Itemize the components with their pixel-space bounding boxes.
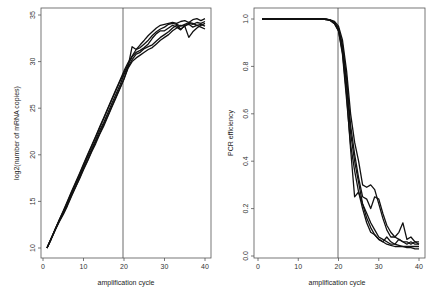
y-tick-label: 30 — [29, 58, 36, 66]
x-tick-label: 10 — [80, 263, 88, 270]
x-tick-label: 0 — [41, 263, 45, 270]
left-x-axis: 010203040 — [41, 258, 209, 270]
y-tick-label: 35 — [29, 11, 36, 19]
y-tick-label: 0.8 — [242, 61, 249, 71]
left-series-lines — [47, 19, 205, 248]
figure: 101520253035 010203040 log2(number of mR… — [0, 0, 439, 298]
x-tick-label: 40 — [415, 263, 423, 270]
x-tick-label: 40 — [201, 263, 209, 270]
y-tick-label: 0.2 — [242, 204, 249, 214]
right-plot: 0.00.20.40.60.81.0 010203040 PCR efficie… — [227, 8, 425, 287]
y-tick-label: 25 — [29, 104, 36, 112]
series-line — [262, 19, 419, 244]
y-tick-label: 1.0 — [242, 14, 249, 24]
y-tick-label: 0.0 — [242, 251, 249, 261]
x-tick-label: 30 — [375, 263, 383, 270]
left-x-axis-label: amplification cycle — [98, 279, 155, 287]
x-tick-label: 0 — [256, 263, 260, 270]
right-plot-frame — [254, 8, 425, 258]
left-plot: 101520253035 010203040 log2(number of mR… — [13, 8, 211, 287]
right-y-axis: 0.00.20.40.60.81.0 — [242, 14, 254, 261]
series-line — [47, 23, 205, 249]
y-tick-label: 10 — [29, 244, 36, 252]
x-tick-label: 30 — [161, 263, 169, 270]
left-plot-frame — [41, 8, 211, 258]
series-line — [47, 24, 205, 248]
series-line — [47, 23, 205, 248]
right-x-axis-label: amplification cycle — [309, 279, 366, 287]
right-series-lines — [262, 19, 419, 249]
y-tick-label: 0.4 — [242, 156, 249, 166]
series-line — [262, 19, 419, 242]
series-line — [47, 22, 205, 249]
series-line — [47, 19, 205, 248]
left-y-axis: 101520253035 — [29, 11, 41, 252]
right-y-axis-label: PCR efficiency — [227, 110, 235, 156]
right-x-axis: 010203040 — [256, 258, 423, 270]
series-line — [262, 19, 419, 244]
y-tick-label: 15 — [29, 197, 36, 205]
series-line — [262, 19, 419, 247]
x-tick-label: 20 — [335, 263, 343, 270]
series-line — [262, 19, 419, 249]
x-tick-label: 20 — [120, 263, 128, 270]
x-tick-label: 10 — [294, 263, 302, 270]
left-y-axis-label: log2(number of mRNA copies) — [13, 86, 21, 180]
y-tick-label: 20 — [29, 151, 36, 159]
y-tick-label: 0.6 — [242, 109, 249, 119]
